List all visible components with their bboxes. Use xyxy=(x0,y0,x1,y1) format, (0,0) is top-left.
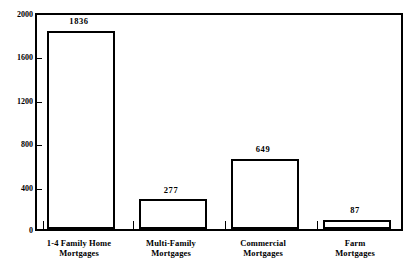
y-tick-label-400: 400 xyxy=(0,183,33,192)
x-category-label-4-line2: Mortgages xyxy=(335,248,375,258)
bar-value-label-1: 1836 xyxy=(69,16,88,26)
x-tick-mark-3 xyxy=(317,221,318,229)
y-tick-label-800: 800 xyxy=(0,140,33,149)
x-category-label-4-line1: Farm xyxy=(345,238,366,248)
x-category-label-1-line1: 1-4 Family Home xyxy=(47,238,111,248)
y-axis-tick-labels: 2000 1600 1200 800 400 0 xyxy=(0,0,33,271)
x-tick-mark-1 xyxy=(133,221,134,229)
x-tick-mark-2 xyxy=(225,221,226,229)
bar-value-label-4: 87 xyxy=(350,205,360,215)
x-category-label-4: Farm Mortgages xyxy=(335,238,375,258)
x-category-label-3-line2: Mortgages xyxy=(240,248,286,258)
y-tick-label-1200: 1200 xyxy=(0,96,33,105)
bar-multi-family-mortgages xyxy=(139,199,207,229)
bar-commercial-mortgages xyxy=(231,159,299,229)
x-category-label-2-line2: Mortgages xyxy=(146,248,196,258)
bar-value-label-2: 277 xyxy=(164,185,179,195)
x-category-label-2: Multi-Family Mortgages xyxy=(146,238,196,258)
y-tick-label-0: 0 xyxy=(0,226,33,235)
x-tick-mark-0 xyxy=(43,221,44,229)
y-tick-label-2000: 2000 xyxy=(0,10,33,19)
y-tick-mark-1200 xyxy=(37,102,42,103)
y-tick-mark-400 xyxy=(37,189,42,190)
bar-chart: 2000 1600 1200 800 400 0 1836 277 649 87… xyxy=(0,0,413,271)
bar-1-4-family-home-mortgages xyxy=(47,31,115,229)
x-tick-mark-4 xyxy=(401,221,402,229)
y-tick-mark-800 xyxy=(37,145,42,146)
y-tick-mark-1600 xyxy=(37,58,42,59)
x-category-label-3-line1: Commercial xyxy=(240,238,286,248)
bar-value-label-3: 649 xyxy=(256,144,271,154)
plot-area xyxy=(35,13,403,231)
bar-farm-mortgages xyxy=(323,220,391,229)
x-category-label-3: Commercial Mortgages xyxy=(240,238,286,258)
x-category-label-1: 1-4 Family Home Mortgages xyxy=(47,238,111,258)
x-category-label-1-line2: Mortgages xyxy=(47,248,111,258)
x-category-label-2-line1: Multi-Family xyxy=(146,238,196,248)
y-tick-label-1600: 1600 xyxy=(0,53,33,62)
